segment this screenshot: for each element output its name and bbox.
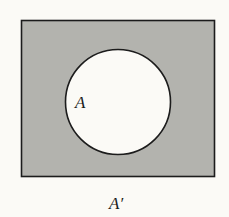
complement-label: A′ [108,194,123,213]
venn-diagram: A A′ [0,0,229,217]
set-a-label: A [74,93,86,112]
